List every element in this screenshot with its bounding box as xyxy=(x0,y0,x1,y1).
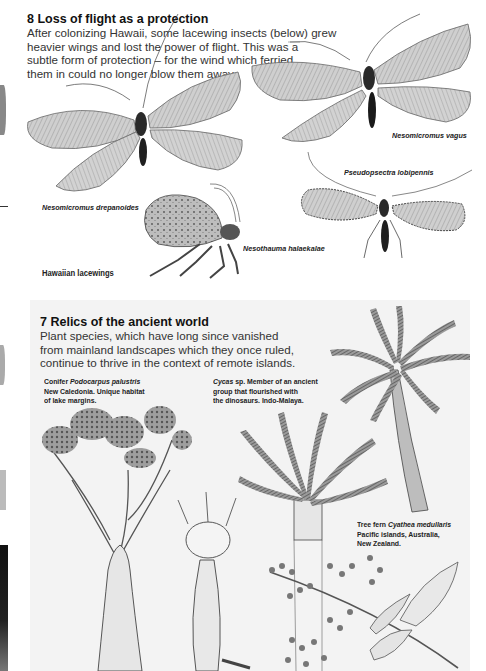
species-name: Podocarpus palustris xyxy=(70,377,140,386)
species-name: Cyathea medullaris xyxy=(388,520,451,529)
caption-cycas: Cycas sp. Member of an ancient group tha… xyxy=(213,377,351,406)
caption-cyathea: Tree fern Cyathea medullaris Pacific isl… xyxy=(357,520,477,549)
caption-podocarpus: Conifer Podocarpus palustris New Caledon… xyxy=(44,377,182,406)
species-name: Cycas xyxy=(213,377,233,386)
plants-illustration xyxy=(0,0,486,671)
